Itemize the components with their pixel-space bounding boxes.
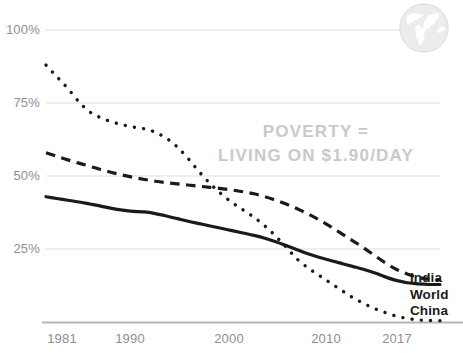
legend: India World China <box>410 270 463 320</box>
legend-item-china: China <box>410 303 463 320</box>
x-tick-2010: 2010 <box>311 332 341 345</box>
x-tick-1990: 1990 <box>115 332 145 345</box>
legend-item-world: World <box>410 287 463 304</box>
legend-item-india: India <box>410 270 463 287</box>
poverty-line-chart: 100% 75% 50% 25% 1981 1990 2000 2010 201… <box>0 0 463 360</box>
x-axis-labels: 1981 1990 2000 2010 2017 <box>0 0 463 360</box>
x-tick-1981: 1981 <box>47 332 77 345</box>
x-tick-2000: 2000 <box>214 332 244 345</box>
x-tick-2017: 2017 <box>382 332 412 345</box>
